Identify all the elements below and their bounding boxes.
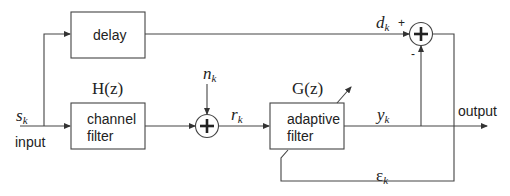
minus-sign: -	[411, 48, 415, 60]
input-signal-label: sk	[16, 107, 28, 126]
diagram-lines	[0, 0, 510, 196]
plus-sign: +	[398, 17, 405, 29]
channel-filter-label-2: filter	[87, 128, 113, 145]
adaptive-filter-label-2: filter	[287, 128, 313, 145]
adaptive-equalizer-diagram: delay channel filter adaptive filter H(z…	[0, 0, 510, 196]
output-label: output	[458, 104, 497, 118]
delay-branch-arrow	[44, 34, 70, 126]
filter-output-signal-label: yk	[377, 106, 389, 125]
adaptive-adjust-arrow	[337, 87, 351, 103]
error-signal-label: εk	[376, 167, 388, 186]
error-feedback-line	[281, 34, 454, 181]
channel-transfer-function: H(z)	[92, 80, 123, 97]
desired-signal-label: dk	[376, 14, 389, 33]
delay-label: delay	[93, 27, 126, 44]
noise-signal-label: nk	[203, 65, 216, 84]
adaptive-transfer-function: G(z)	[292, 80, 323, 97]
channel-filter-label-1: channel	[87, 111, 136, 128]
adaptive-filter-label-1: adaptive	[287, 111, 340, 128]
received-signal-label: rk	[231, 106, 243, 125]
input-label: input	[15, 135, 45, 149]
